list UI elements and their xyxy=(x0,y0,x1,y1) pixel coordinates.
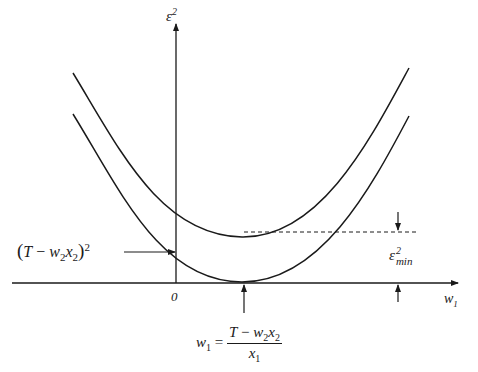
emin-sub: min xyxy=(396,256,413,267)
intercept-label: (T − w2x2)2 xyxy=(17,240,90,263)
num-x-sub: 2 xyxy=(275,332,280,343)
y-axis-label: ε2 xyxy=(166,6,177,25)
optimum-lhs-w: w xyxy=(196,334,206,350)
error-surface-diagram xyxy=(0,0,478,372)
y-axis-label-sup: 2 xyxy=(172,6,177,17)
intercept-minus: − xyxy=(32,243,49,260)
optimum-numerator: T − w2x2 xyxy=(227,324,282,344)
intercept-sup: 2 xyxy=(84,241,90,253)
optimum-denominator: x1 xyxy=(227,344,282,364)
intercept-w: w xyxy=(49,243,60,260)
x-axis-label-sub: 1 xyxy=(453,299,458,309)
optimum-fraction: T − w2x2 x1 xyxy=(227,324,282,364)
intercept-T: T xyxy=(23,243,32,260)
emin-label: ε2min xyxy=(389,246,412,267)
emin-base: ε xyxy=(389,247,395,263)
num-x: x xyxy=(268,324,275,340)
x-axis-label: w1 xyxy=(444,291,458,309)
den-x-sub: 1 xyxy=(255,353,260,364)
intercept-x: x xyxy=(65,243,72,260)
num-w: w xyxy=(253,324,263,340)
optimum-equals: = xyxy=(211,334,227,350)
upper-parabola xyxy=(73,68,409,237)
lower-parabola xyxy=(73,114,409,282)
x-axis-label-base: w xyxy=(444,291,453,306)
num-minus: − xyxy=(237,324,253,340)
optimum-formula: w1 = T − w2x2 x1 xyxy=(196,324,282,364)
origin-label: 0 xyxy=(171,289,178,305)
